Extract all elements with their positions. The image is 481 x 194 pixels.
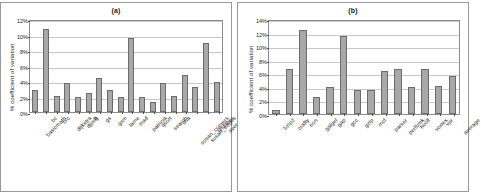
y-axis-tick-label: 4% <box>259 86 267 92</box>
bar-slot <box>323 21 337 114</box>
bar <box>408 87 415 114</box>
y-axis-tick-mark <box>267 116 269 117</box>
bar <box>86 93 92 112</box>
bar-slot <box>41 21 52 112</box>
bar-slot <box>147 21 158 112</box>
x-axis-tick-mark <box>208 112 209 114</box>
x-axis-tick-mark <box>57 112 58 114</box>
bar <box>171 96 177 112</box>
x-axis-tick-mark <box>35 112 36 114</box>
y-axis-tick-label: 8% <box>20 49 28 55</box>
bar <box>286 69 293 114</box>
x-axis-tick-mark <box>303 114 304 116</box>
bar-slot <box>115 21 126 112</box>
bar <box>150 102 156 112</box>
panel-a-plot-area: 0%2%4%6%8%10%12% basicmathbccrcdijkstrad… <box>29 20 223 113</box>
bar-slot <box>350 21 364 114</box>
x-axis-tick-mark <box>399 114 400 116</box>
panel-b-y-axis-label: % coefficient of variation <box>248 45 254 113</box>
panel-b-bar-series <box>269 21 459 114</box>
y-axis-tick-label: 14% <box>256 18 267 24</box>
bar-slot <box>94 21 105 112</box>
y-axis-tick-label: 10% <box>256 45 267 51</box>
bar-slot <box>137 21 148 112</box>
bar-slot <box>364 21 378 114</box>
y-axis-tick-label: 8% <box>259 59 267 65</box>
bar-slot <box>201 21 212 112</box>
bar <box>203 43 209 112</box>
x-axis-tick-mark <box>372 114 373 116</box>
x-axis-tick-label: gcc <box>349 117 360 128</box>
panel-b-plot-wrapper: % coefficient of variation 0%2%4%6%8%10%… <box>238 3 468 191</box>
panel-b-plot-area: 0%2%4%6%8%10%12%14% bzip2craftyeongalgel… <box>268 20 460 115</box>
chart-panel-a: (a) % coefficient of variation 0%2%4%6%8… <box>0 2 232 192</box>
bar-slot <box>391 21 405 114</box>
bar-slot <box>418 21 432 114</box>
x-axis-tick-label: eon <box>308 117 319 128</box>
x-axis-tick-mark <box>317 114 318 116</box>
bar <box>449 76 456 114</box>
bar <box>421 69 428 114</box>
bar <box>118 97 124 112</box>
bar-slot <box>62 21 73 112</box>
bar <box>214 82 220 112</box>
bar <box>54 96 60 112</box>
bar <box>182 75 188 112</box>
x-axis-tick-mark <box>100 112 101 114</box>
bar <box>96 78 102 112</box>
bar <box>354 90 361 114</box>
x-axis-tick-mark <box>143 112 144 114</box>
bar-slot <box>51 21 62 112</box>
bar <box>128 38 134 112</box>
bar <box>326 87 333 114</box>
x-axis-tick-mark <box>111 112 112 114</box>
y-axis-tick-label: 2% <box>259 99 267 105</box>
bar-slot <box>83 21 94 112</box>
bar-slot <box>446 21 460 114</box>
x-axis-tick-mark <box>68 112 69 114</box>
bar-slot <box>73 21 84 112</box>
x-axis-tick-mark <box>331 114 332 116</box>
x-axis-tick-mark <box>276 114 277 116</box>
x-axis-tick-mark <box>386 114 387 116</box>
panel-a-y-axis-label: % coefficient of variation <box>9 43 15 111</box>
bar-slot <box>405 21 419 114</box>
bar-slot <box>432 21 446 114</box>
bar-slot <box>378 21 392 114</box>
y-axis-tick-label: 0% <box>20 111 28 117</box>
bar <box>64 83 70 112</box>
bar <box>435 86 442 115</box>
bar <box>394 69 401 114</box>
x-axis-tick-mark <box>290 114 291 116</box>
bar-slot <box>105 21 116 112</box>
x-axis-tick-mark <box>197 112 198 114</box>
x-axis-tick-mark <box>79 112 80 114</box>
x-axis-tick-label: gsm <box>116 115 128 127</box>
x-axis-tick-mark <box>427 114 428 116</box>
bar-slot <box>126 21 137 112</box>
x-axis-tick-label: gs <box>104 115 112 123</box>
x-axis-tick-label: bzip2 <box>282 117 296 131</box>
y-axis-tick-label: 4% <box>20 80 28 86</box>
bar <box>313 97 320 114</box>
x-axis-tick-label: gap <box>335 117 346 128</box>
bar-slot <box>283 21 297 114</box>
x-axis-tick-mark <box>154 112 155 114</box>
y-axis-tick-label: 0% <box>259 113 267 119</box>
x-axis-tick-mark <box>165 112 166 114</box>
bar <box>367 90 374 114</box>
bar <box>381 71 388 114</box>
y-axis-tick-label: 12% <box>256 32 267 38</box>
x-axis-tick-mark <box>186 112 187 114</box>
y-axis-tick-label: 6% <box>259 72 267 78</box>
x-axis-tick-mark <box>132 112 133 114</box>
y-axis-tick-mark <box>28 114 30 115</box>
x-axis-tick-mark <box>89 112 90 114</box>
x-axis-tick-mark <box>344 114 345 116</box>
panel-a-plot-wrapper: % coefficient of variation 0%2%4%6%8%10%… <box>1 3 231 191</box>
bar <box>107 90 113 112</box>
bar-slot <box>269 21 283 114</box>
bar-slot <box>179 21 190 112</box>
panel-a-bar-series <box>30 21 222 112</box>
